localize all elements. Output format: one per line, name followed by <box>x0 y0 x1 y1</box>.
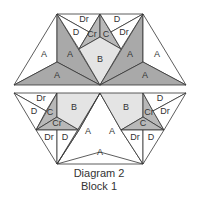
piece-label: A <box>67 49 73 59</box>
piece-label: B <box>123 102 129 112</box>
piece-label: D <box>157 93 164 103</box>
piece-label: D <box>148 132 155 142</box>
piece-label: Dr <box>79 14 89 24</box>
piece-label: A <box>97 147 103 157</box>
caption-title: Diagram 2 <box>0 167 198 179</box>
piece-label: C <box>103 29 110 39</box>
piece-label: Dr <box>130 132 140 142</box>
piece-label: A <box>127 49 133 59</box>
lower-half: DrDCCrBDrDAAABCrCDDrDrD <box>14 93 186 164</box>
piece-label: B <box>71 102 77 112</box>
piece-label: C <box>47 107 54 117</box>
upper-half: AAADrDCrCBDDrAAA <box>14 14 186 85</box>
piece-label: Cr <box>87 29 97 39</box>
piece-label: C <box>140 118 147 128</box>
piece-label: B <box>97 54 103 64</box>
piece-label: A <box>41 49 47 59</box>
piece-label: D <box>73 27 80 37</box>
piece-label: Dr <box>119 27 129 37</box>
piece-label: D <box>114 14 121 24</box>
piece-label: Cr <box>144 107 154 117</box>
piece-label: A <box>109 126 115 136</box>
piece-label: Cr <box>52 118 62 128</box>
piece-label: D <box>62 132 69 142</box>
piece-label: A <box>142 70 148 80</box>
piece-label: Dr <box>160 106 170 116</box>
piece-label: D <box>31 106 38 116</box>
piece-label: A <box>54 70 60 80</box>
piece-label: A <box>85 126 91 136</box>
piece-label: A <box>154 49 160 59</box>
caption-subtitle: Block 1 <box>0 180 198 192</box>
piece-label: Dr <box>36 93 46 103</box>
piece-label: Dr <box>44 132 54 142</box>
